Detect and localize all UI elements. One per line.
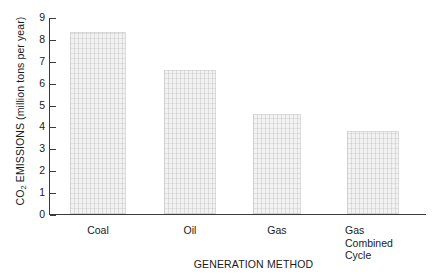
x-axis-label-gas: Gas <box>267 224 286 237</box>
y-axis-tick-label-wrap: 9 <box>3 18 45 19</box>
y-axis-tick-label-wrap: 5 <box>3 106 45 107</box>
y-axis-tick-label-wrap: 2 <box>3 171 45 172</box>
y-axis-tick-label: 9 <box>5 12 45 22</box>
y-axis-tick-label-wrap: 4 <box>3 127 45 128</box>
x-axis-title: GENERATION METHOD <box>0 258 433 270</box>
y-axis-tick <box>50 127 56 128</box>
x-axis-label-coal: Coal <box>87 224 109 237</box>
y-axis-tick <box>50 171 56 172</box>
y-axis-tick-label: 6 <box>5 78 45 88</box>
y-axis-tick-label-wrap: 6 <box>3 84 45 85</box>
y-axis-tick-label-wrap: 3 <box>3 149 45 150</box>
y-axis-tick-label-wrap: 1 <box>3 193 45 194</box>
x-axis-line <box>49 214 426 215</box>
y-axis-tick-label-wrap: 0 <box>3 215 45 216</box>
y-axis-tick-label-wrap: 8 <box>3 40 45 41</box>
y-axis-tick-label: 3 <box>5 143 45 153</box>
x-axis-label-oil: Oil <box>184 224 197 237</box>
y-axis-tick-label: 2 <box>5 165 45 175</box>
y-axis-tick-label: 5 <box>5 100 45 110</box>
y-axis-tick-label: 1 <box>5 187 45 197</box>
bar-gas <box>253 114 301 214</box>
y-axis-line <box>49 18 50 215</box>
y-axis-tick-label-wrap: 7 <box>3 62 45 63</box>
bar-gas-combined-cycle <box>347 131 399 214</box>
y-axis-tick <box>50 106 56 107</box>
y-axis-tick-label: 7 <box>5 56 45 66</box>
bar-oil <box>164 70 216 214</box>
y-axis-tick <box>50 40 56 41</box>
bar-chart-figure: CO2 EMISSIONS (million tons per year) 98… <box>0 0 433 278</box>
y-axis-tick <box>50 18 56 19</box>
y-axis-tick <box>50 62 56 63</box>
y-axis-tick-label: 0 <box>5 209 45 219</box>
y-axis-tick <box>50 215 56 216</box>
y-axis-tick <box>50 193 56 194</box>
y-axis-tick-label: 8 <box>5 34 45 44</box>
y-axis-tick <box>50 149 56 150</box>
plot-area: 9876543210 <box>49 18 426 215</box>
bar-coal <box>70 32 126 214</box>
y-axis-tick <box>50 84 56 85</box>
y-axis-tick-label: 4 <box>5 121 45 131</box>
x-axis-label-gas-combined-cycle: Gas Combined Cycle <box>345 224 393 262</box>
